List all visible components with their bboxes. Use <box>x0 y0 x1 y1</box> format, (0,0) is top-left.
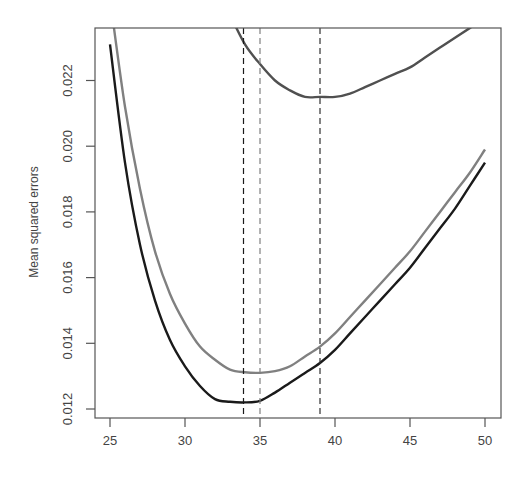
x-axis: 253035404550 <box>103 418 492 448</box>
y-tick-label: 0.018 <box>60 196 75 229</box>
x-tick-label: 40 <box>328 433 342 448</box>
x-tick-label: 35 <box>253 433 267 448</box>
y-axis-label: Mean squared errors <box>27 166 41 277</box>
y-tick-label: 0.012 <box>60 393 75 426</box>
y-axis: 0.0120.0140.0160.0180.0200.022 <box>60 64 95 425</box>
y-tick-label: 0.016 <box>60 261 75 294</box>
x-tick-label: 25 <box>103 433 117 448</box>
upper-curve-line <box>230 15 485 98</box>
plot-area <box>110 0 485 402</box>
y-tick-label: 0.020 <box>60 130 75 163</box>
x-tick-label: 50 <box>478 433 492 448</box>
x-tick-label: 45 <box>403 433 417 448</box>
y-tick-label: 0.022 <box>60 64 75 97</box>
y-tick-label: 0.014 <box>60 327 75 360</box>
plot-frame <box>95 28 501 418</box>
mse-line-chart: 253035404550 0.0120.0140.0160.0180.0200.… <box>0 0 523 478</box>
x-tick-label: 30 <box>178 433 192 448</box>
black-curve-line <box>110 44 485 402</box>
